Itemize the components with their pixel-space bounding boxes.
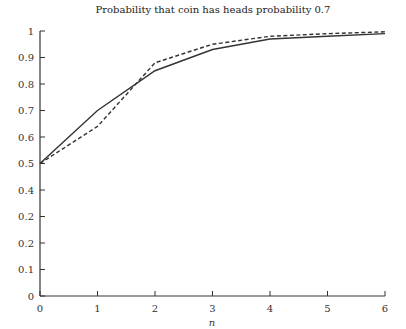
x-tick-label: 5 [324, 303, 330, 314]
y-tick-label: 0.8 [18, 79, 34, 90]
chart: Probability that coin has heads probabil… [0, 0, 406, 329]
series-line-solid [40, 34, 385, 164]
x-tick-label: 6 [382, 303, 388, 314]
y-tick-label: 0.2 [18, 211, 34, 222]
y-tick-label: 0.7 [18, 105, 34, 116]
y-tick-label: 0.6 [18, 132, 34, 143]
y-tick-label: 0.4 [18, 185, 34, 196]
y-tick-label: 0.5 [18, 158, 34, 169]
y-tick-label: 0 [28, 291, 34, 302]
y-tick-label: 0.9 [18, 52, 34, 63]
y-tick-label: 1 [28, 26, 34, 37]
series-group [40, 32, 385, 164]
chart-title: Probability that coin has heads probabil… [96, 4, 331, 15]
axes: 00.10.20.20.40.50.60.70.80.910123456 [18, 26, 388, 315]
x-tick-label: 4 [267, 303, 273, 314]
x-tick-label: 1 [94, 303, 100, 314]
x-tick-label: 0 [37, 303, 43, 314]
x-tick-label: 2 [152, 303, 158, 314]
series-line-dashed [40, 32, 385, 164]
y-tick-label: 0.1 [18, 264, 34, 275]
x-tick-label: 3 [209, 303, 215, 314]
y-tick-label: 0.2 [18, 238, 34, 249]
x-axis-label: n [209, 317, 215, 328]
